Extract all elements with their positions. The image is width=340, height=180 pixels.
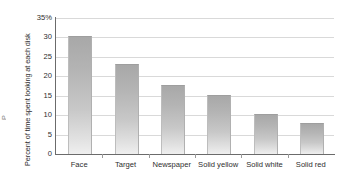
gridline [56,37,334,38]
y-axis-tick-labels: 05101520253035% [26,0,52,168]
x-axis-tick-label: Newspaper [149,160,195,169]
bar [207,95,231,154]
gridline [56,57,334,58]
x-axis-tick [241,154,242,158]
x-axis-tick [288,154,289,158]
plot-area [56,18,334,154]
y-axis-tick-label: 30 [26,33,52,41]
x-axis-tick [102,154,103,158]
bar [254,114,278,154]
x-axis-tick-label: Solid white [241,160,287,169]
bar-chart: P Percent of time spent looking at each … [0,0,340,180]
gridline [56,18,334,19]
x-axis-tick [195,154,196,158]
y-axis-tick-label: 35% [26,14,52,22]
y-axis-tick-label: 25 [26,53,52,61]
gridline [56,76,334,77]
x-axis-tick-label: Target [102,160,148,169]
gridline [56,96,334,97]
x-axis-tick [149,154,150,158]
bar [161,85,185,154]
y-axis-tick-label: 10 [26,111,52,119]
x-axis-tick-label: Face [56,160,102,169]
y-axis-line [55,17,56,155]
y-axis-tick-label: 15 [26,92,52,100]
x-axis-tick-label: Solid yellow [195,160,241,169]
bar [300,123,324,154]
gridline [56,115,334,116]
bar [68,36,92,154]
y-axis-tick-label: 5 [26,131,52,139]
y-axis-tick-label: 20 [26,72,52,80]
bar [115,64,139,154]
y-axis-tick-label: 0 [26,150,52,158]
gridline [56,135,334,136]
x-axis-tick-label: Solid red [288,160,334,169]
